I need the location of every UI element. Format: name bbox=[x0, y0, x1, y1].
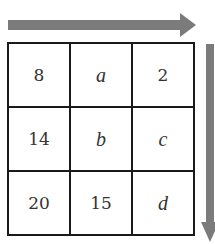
grid-cell: d bbox=[132, 171, 194, 235]
down-arrow-icon bbox=[201, 222, 215, 242]
grid-cell: 14 bbox=[8, 107, 70, 171]
grid-cell: 2 bbox=[132, 43, 194, 107]
right-arrow-icon bbox=[180, 13, 196, 37]
number-grid: 8 a 2 14 b c 20 15 d bbox=[7, 42, 195, 236]
grid-cell: 8 bbox=[8, 43, 70, 107]
grid-cell: 15 bbox=[70, 171, 132, 235]
grid-cell: a bbox=[70, 43, 132, 107]
grid-row-2: 14 b c bbox=[8, 107, 194, 171]
grid-row-3: 20 15 d bbox=[8, 171, 194, 235]
grid-cell: b bbox=[70, 107, 132, 171]
grid-row-1: 8 a 2 bbox=[8, 43, 194, 107]
grid-cell: c bbox=[132, 107, 194, 171]
horizontal-arrow-shaft bbox=[8, 20, 188, 30]
grid-cell: 20 bbox=[8, 171, 70, 235]
vertical-arrow-shaft bbox=[206, 44, 214, 224]
